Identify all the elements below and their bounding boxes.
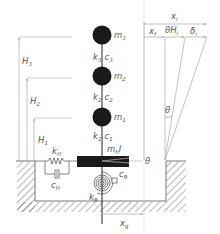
xf-label: xf — [148, 26, 157, 37]
xi-label: xi — [170, 11, 178, 22]
mass-m2: m2 — [93, 67, 127, 86]
rocking-spring-damper: cR kR — [89, 169, 128, 203]
base-rotation-label: θ — [145, 156, 151, 166]
mass-m1: m1 — [93, 108, 126, 127]
h3-label: H3 — [22, 56, 32, 67]
structural-model-diagram: H3 H2 H1 m3 m2 m1 k3c3 k2c2 k1c1 mhI θ k… — [0, 0, 220, 234]
svg-text:cH: cH — [51, 180, 60, 191]
ground — [16, 161, 186, 212]
svg-text:m3: m3 — [114, 30, 126, 41]
height-dimensions: H3 H2 H1 — [19, 37, 72, 161]
displacement-decomposition: xi xf θHi δi θ — [144, 11, 207, 160]
svg-text:cR: cR — [119, 169, 128, 180]
link-2-label: k2c2 — [93, 92, 113, 103]
foundation-block: mhI θ — [77, 144, 151, 167]
svg-text:m1: m1 — [114, 112, 126, 123]
svg-text:kH: kH — [52, 146, 61, 157]
svg-text:m2: m2 — [114, 71, 126, 82]
h2-label: H2 — [30, 96, 40, 107]
horizontal-spring-damper: kH cH — [35, 146, 77, 191]
link-1-label: k1c1 — [93, 131, 113, 142]
theta-label: θ — [165, 105, 171, 115]
svg-text:xg: xg — [119, 218, 129, 230]
mass-m3: m3 — [93, 26, 127, 45]
svg-text:mhI: mhI — [107, 144, 122, 155]
link-3-label: k3c3 — [93, 52, 113, 63]
h1-label: H1 — [38, 135, 48, 146]
svg-text:kR: kR — [89, 192, 98, 203]
theta-h-label: θHi — [165, 25, 179, 36]
delta-label: δi — [190, 26, 197, 37]
